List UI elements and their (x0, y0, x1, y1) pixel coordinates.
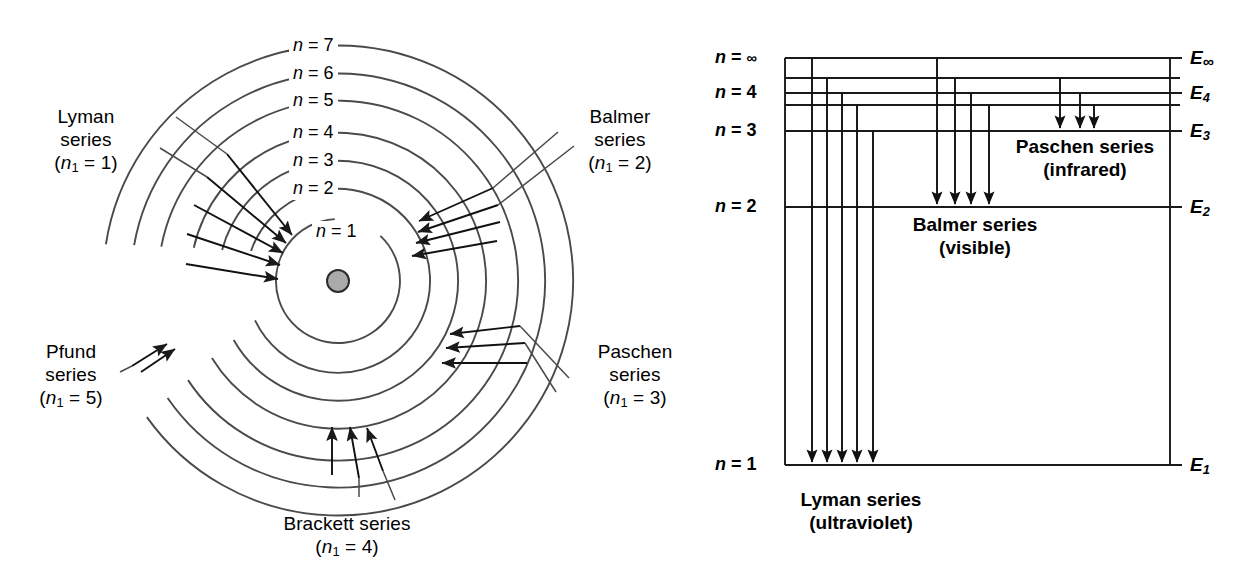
series-label-brackett: Brackett series (n1 = 4) (232, 512, 462, 560)
brackett-arrow-3 (367, 428, 383, 471)
energy-lyman-line1: Lyman series (766, 488, 956, 511)
energy-balmer-line1: Balmer series (880, 213, 1070, 236)
energy-e-label-1: E1 (1190, 453, 1210, 478)
balmer-name-line1: Balmer (550, 105, 690, 128)
energy-e-label-3: E3 (1190, 119, 1210, 144)
paschen-name-line2: series (560, 363, 710, 386)
orbit-label-1: n = 1 (312, 221, 361, 243)
brackett-name-line1: Brackett series (232, 512, 462, 535)
energy-lyman-line2: (ultraviolet) (766, 511, 956, 534)
lyman-arrow-1 (227, 154, 292, 235)
balmer-name-line2: series (550, 128, 690, 151)
paschen-subscript-line: (n1 = 3) (560, 386, 710, 411)
energy-n-label-2: n = 2 (712, 196, 760, 218)
energy-paschen-line2: (infrared) (985, 158, 1185, 181)
orbit-label-3: n = 3 (289, 150, 338, 172)
figure-root: n = 7 n = 6 n = 5 n = 4 n = 3 n = 2 n = … (0, 0, 1234, 583)
lyman-name-line1: Lyman (16, 105, 156, 128)
lyman-arrow-group (186, 154, 292, 279)
energy-n-label-4: n = 4 (712, 82, 760, 104)
lyman-name-line2: series (16, 128, 156, 151)
nucleus (327, 270, 349, 292)
energy-series-label-lyman: Lyman series (ultraviolet) (766, 488, 956, 534)
energy-series-label-balmer: Balmer series (visible) (880, 213, 1070, 259)
paschen-name-line1: Paschen (560, 340, 710, 363)
pfund-name-line1: Pfund (6, 340, 136, 363)
series-label-pfund: Pfund series (n1 = 5) (6, 340, 136, 411)
balmer-arrow-3 (416, 222, 500, 243)
orbit-label-2: n = 2 (289, 178, 338, 200)
energy-level-lines (785, 58, 1180, 465)
balmer-subscript-line: (n1 = 2) (550, 151, 690, 176)
brackett-arrow-2 (350, 427, 359, 478)
series-label-paschen: Paschen series (n1 = 3) (560, 340, 710, 411)
energy-n-label-3: n = 3 (712, 120, 760, 142)
orbit-label-5: n = 5 (289, 90, 338, 112)
lyman-arrow-5 (186, 264, 278, 279)
pfund-subscript-line: (n1 = 5) (6, 386, 136, 411)
energy-balmer-line2: (visible) (880, 236, 1070, 259)
lyman-subscript-line: (n1 = 1) (16, 151, 156, 176)
bohr-diagram-canvas (0, 0, 1234, 583)
brackett-arrow-group (332, 427, 383, 478)
paschen-arrow-2 (446, 343, 525, 348)
pfund-arrow-2 (141, 349, 175, 372)
energy-e-label-4: E4 (1190, 81, 1210, 106)
energy-paschen-line1: Paschen series (985, 135, 1185, 158)
orbit-label-7: n = 7 (289, 35, 338, 57)
energy-n-label-1: n = 1 (712, 454, 760, 476)
pfund-name-line2: series (6, 363, 136, 386)
orbit-label-4: n = 4 (289, 122, 338, 144)
lyman-arrow-4 (187, 234, 280, 265)
orbit-label-6: n = 6 (289, 63, 338, 85)
energy-paschen-arrows (1060, 78, 1094, 128)
energy-right-ticks (1170, 58, 1182, 465)
energy-lyman-arrows (812, 58, 873, 462)
pfund-arrow-group (132, 344, 175, 372)
paschen-arrow-group (442, 326, 527, 363)
pfund-arrow-1 (132, 344, 167, 366)
series-label-lyman: Lyman series (n1 = 1) (16, 105, 156, 176)
brackett-subscript-line: (n1 = 4) (232, 535, 462, 560)
series-label-balmer: Balmer series (n1 = 2) (550, 105, 690, 176)
lyman-leader-lines (160, 117, 227, 177)
balmer-arrow-2 (418, 205, 498, 232)
energy-e-label-2: E2 (1190, 195, 1210, 220)
energy-n-label-inf: n = ∞ (712, 47, 760, 69)
energy-series-label-paschen: Paschen series (infrared) (985, 135, 1185, 181)
energy-e-label-inf: E∞ (1190, 46, 1214, 71)
